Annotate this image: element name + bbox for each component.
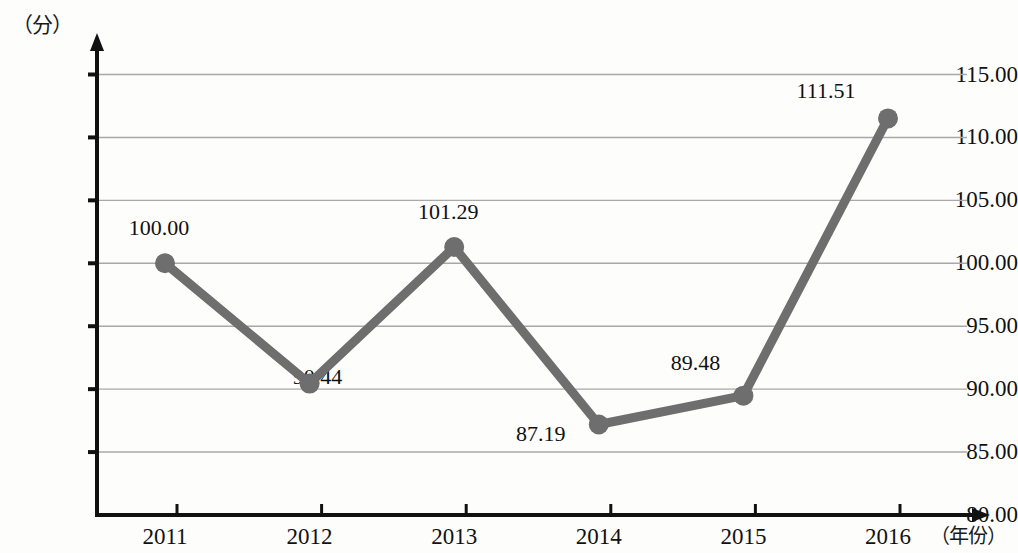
data-point-marker[interactable] [733, 386, 753, 406]
data-point-marker[interactable] [878, 108, 898, 128]
data-point-marker[interactable] [300, 374, 320, 394]
line-chart: （分） （年份） 115.00110.00105.00100.0095.0090… [0, 0, 1018, 553]
data-point-marker[interactable] [589, 415, 609, 435]
plot-area [0, 0, 1018, 553]
series-line [165, 118, 888, 424]
gridlines [97, 75, 967, 453]
series-markers [155, 108, 898, 434]
data-point-marker[interactable] [444, 237, 464, 257]
x-axis-arrow-icon [972, 508, 990, 522]
y-axis-arrow-icon [90, 33, 104, 51]
axes [90, 33, 990, 522]
data-point-marker[interactable] [155, 253, 175, 273]
